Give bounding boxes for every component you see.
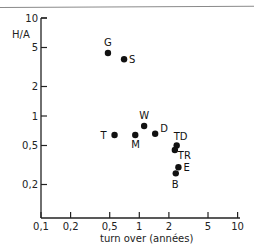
y-tick-label: 2 [32, 81, 38, 92]
x-tick-label: 0,5 [102, 221, 118, 232]
y-axis-label: H/A [12, 29, 30, 40]
scatter-chart: 105210,50,2 0,10,20,512510 H/A turn over… [0, 0, 254, 246]
y-tick-label: 5 [32, 42, 38, 53]
x-tick-label: 1 [136, 221, 142, 232]
point-label: G [104, 37, 112, 48]
data-point [111, 132, 117, 138]
point-label: W [139, 110, 149, 121]
data-point [173, 170, 179, 176]
point-label: T [100, 130, 108, 141]
data-point [121, 56, 127, 62]
x-tick-label: 2 [166, 221, 172, 232]
x-axis-label: turn over (années) [100, 233, 193, 244]
point-label: TR [177, 150, 191, 161]
point-label: E [183, 162, 189, 173]
y-tick-label: 0,2 [22, 179, 38, 190]
point-label: B [172, 179, 179, 190]
y-tick-label: 0,5 [22, 140, 38, 151]
y-tick-label: 1 [32, 111, 38, 122]
data-point [175, 164, 181, 170]
x-tick-label: 0,2 [63, 221, 79, 232]
y-tick-label: 10 [25, 13, 38, 24]
x-tick-label: 5 [205, 221, 211, 232]
x-ticks: 0,10,20,512510 [33, 212, 244, 232]
data-point [152, 130, 158, 136]
data-points: GSTMWDTDTREB [100, 37, 191, 190]
x-tick-label: 0,1 [33, 221, 49, 232]
point-label: TD [173, 131, 188, 142]
x-tick-label: 10 [231, 221, 244, 232]
data-point [141, 123, 147, 129]
point-label: M [131, 139, 140, 150]
point-label: S [129, 54, 135, 65]
data-point [105, 50, 111, 56]
point-label: D [160, 123, 168, 134]
data-point [132, 132, 138, 138]
